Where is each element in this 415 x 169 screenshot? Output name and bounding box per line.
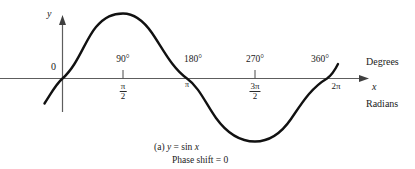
radian-tick-label-pi: π <box>185 81 189 89</box>
degree-tick-label-360: 360° <box>311 55 329 65</box>
caption-line-2: Phase shift = 0 <box>154 154 228 167</box>
caption-figure-label: (a) <box>154 142 165 152</box>
caption-equation-y: y <box>167 142 171 152</box>
sine-graph-figure: y x 0 90° 180° 270° 360° π 2 π 3π 2 2π D… <box>0 0 415 169</box>
degree-tick-label-180: 180° <box>184 55 202 65</box>
radian-tick-label-3pi-over-2: 3π 2 <box>249 82 260 102</box>
radians-axis-caption: Radians <box>366 99 398 109</box>
x-axis-label: x <box>372 82 376 92</box>
degree-tick-label-90: 90° <box>116 55 129 65</box>
y-axis-label: y <box>47 9 51 19</box>
fraction-pi-over-2: π 2 <box>120 82 127 102</box>
origin-label: 0 <box>51 62 56 72</box>
fraction-denominator: 2 <box>249 92 260 101</box>
figure-caption: (a) y = sin x Phase shift = 0 <box>154 141 228 166</box>
degrees-axis-caption: Degrees <box>366 57 399 67</box>
y-axis <box>59 15 66 112</box>
sine-curve <box>45 14 339 142</box>
radian-tick-label-pi-over-2: π 2 <box>120 82 127 102</box>
caption-line-1: (a) y = sin x <box>154 141 228 154</box>
fraction-denominator: 2 <box>120 92 127 101</box>
fraction-3pi-over-2: 3π 2 <box>249 82 260 102</box>
caption-equation-rest: = sin <box>174 142 193 152</box>
radian-tick-label-2pi: 2π <box>331 82 340 91</box>
caption-equation-var: x <box>195 142 199 152</box>
degree-tick-label-270: 270° <box>246 55 264 65</box>
x-axis-ticks <box>123 70 255 79</box>
